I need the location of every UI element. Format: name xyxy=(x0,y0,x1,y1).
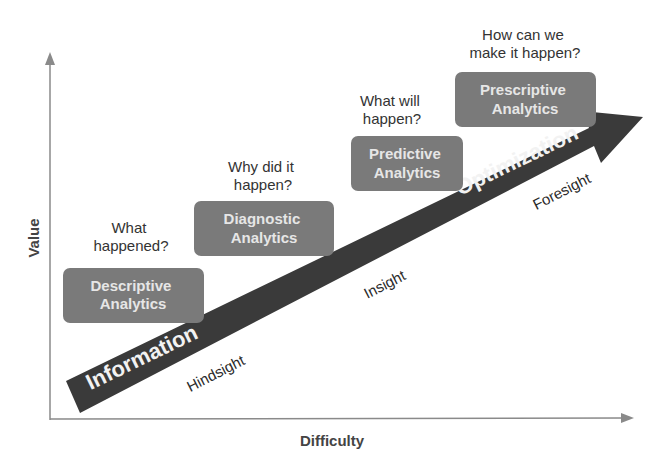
sight-label-hindsight: Hindsight xyxy=(184,351,248,395)
x-axis-arrowhead-icon xyxy=(621,413,634,423)
stage-question: What will happen? xyxy=(360,92,424,127)
stage-prescriptive: How can we make it happen? Prescriptive … xyxy=(455,26,596,127)
stage-question: What happened? xyxy=(93,219,168,254)
y-axis-title: Value xyxy=(25,218,42,257)
sight-label-foresight: Foresight xyxy=(530,169,594,213)
x-axis-title: Difficulty xyxy=(300,432,365,449)
stage-predictive: What will happen? Predictive Analytics xyxy=(351,92,463,191)
stage-question: Why did it happen? xyxy=(228,158,298,193)
stage-descriptive: What happened? Descriptive Analytics xyxy=(63,219,204,323)
analytics-maturity-diagram: Difficulty Value Information Optimizatio… xyxy=(0,0,665,475)
y-axis-arrowhead-icon xyxy=(45,52,55,65)
sight-label-insight: Insight xyxy=(361,266,409,302)
stage-diagnostic: Why did it happen? Diagnostic Analytics xyxy=(194,158,334,256)
x-axis-line xyxy=(50,418,624,419)
stage-box-label: Descriptive Analytics xyxy=(90,277,175,312)
stage-question: How can we make it happen? xyxy=(470,26,581,61)
